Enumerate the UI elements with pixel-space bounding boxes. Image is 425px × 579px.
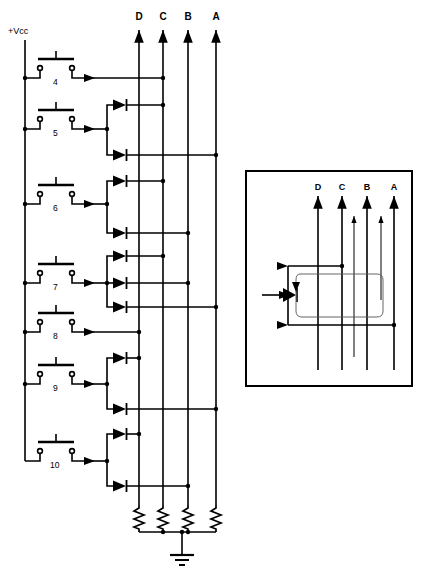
switch-10-left-lead [25,453,40,461]
diode-7-B-anode [113,278,126,289]
junction-7-A [214,305,218,309]
output-column-lines [139,30,216,505]
junction-6-C [161,179,165,183]
junction-4-C [161,76,165,80]
pulldown-resistor-B [183,505,193,532]
diode-10-D [113,428,141,440]
diode-5-C-anode [113,100,126,111]
inset-junction-bottom-A [392,323,396,327]
switch-6-terminal-left [38,192,43,197]
column-label-C: C [159,11,166,22]
diode-5-A [113,149,218,161]
resistor-A-body [211,505,221,532]
switch-10-terminal-left [38,449,43,454]
inset-column-label-D: D [315,182,322,192]
switch-7-vcc-node [23,281,27,285]
diode-7-A-anode [113,302,126,313]
switch-5-up-branch [107,105,113,129]
diode-9-A-anode [113,404,126,415]
switch-7-left-lead [25,275,40,283]
resistor-B-body [183,505,193,532]
switch-10-down-branch [107,461,113,486]
switch-9-right-lead [72,376,95,384]
switch-block-6[interactable]: 6 [23,177,113,233]
switch-8-terminal-left [38,320,43,325]
switch-10-label: 10 [50,460,60,470]
junction-9-D [137,356,141,360]
ground-node-B [186,530,190,534]
ground-node-C [161,530,165,534]
diode-9-D-anode [113,353,126,364]
switch-block-7[interactable]: 7 [23,256,113,307]
switch-8-vcc-node [23,330,27,334]
switch-6-label: 6 [53,203,58,213]
junction-7-C [161,254,165,258]
switch-8-terminal-right [70,320,75,325]
switch-7-label: 7 [53,282,58,292]
ground-bus [139,530,216,565]
switch-9-up-branch [107,358,113,384]
switch-5-vcc-node [23,127,27,131]
switch-10-up-branch [107,434,113,461]
inset-column-label-B: B [364,182,371,192]
switch-block-8[interactable]: 8 [23,305,141,341]
diode-6-C-anode [113,176,126,187]
switch-7-down-branch [107,283,113,307]
junction-9-A [214,407,218,411]
inset-column-label-C: C [339,182,346,192]
diode-6-B [113,227,190,239]
inset-junction-top-C [340,264,344,268]
switch-6-vcc-node [23,202,27,206]
switch-4-left-lead [25,70,40,78]
switch-5-terminal-left [38,117,43,122]
inset-border [246,171,412,386]
switch-4-right-lead [72,70,95,78]
resistor-D-body [134,505,144,532]
junction-5-A [214,153,218,157]
diode-10-B-anode [113,481,126,492]
switch-7-terminal-right [70,271,75,276]
switch-9-terminal-left [38,372,43,377]
switch-block-9[interactable]: 9 [23,357,113,409]
diode-5-A-anode [113,150,126,161]
switch-block-5[interactable]: 5 [23,102,113,155]
diode-10-B [113,480,190,492]
inset-detail-box: D C B A [246,171,412,386]
switch-7-up-branch [107,256,113,283]
column-label-B: B [184,11,191,22]
junction-7-B [186,281,190,285]
column-label-A: A [212,11,219,22]
junction-10-D [137,432,141,436]
pulldown-resistor-D [134,505,144,532]
switch-8-left-lead [25,324,40,332]
switch-9-down-branch [107,384,113,409]
switch-4-terminal-left [38,66,43,71]
diode-9-D [113,352,141,364]
switch-6-up-branch [107,181,113,204]
switch-5-right-lead [72,121,95,129]
switch-10-terminal-right [70,449,75,454]
switch-8-label: 8 [53,331,58,341]
diode-9-A [113,403,218,415]
column-label-D: D [135,11,142,22]
switch-block-10[interactable]: 10 [25,434,113,486]
junction-6-B [186,231,190,235]
diode-7-C-anode [113,251,126,262]
switch-7-right-lead [72,275,95,283]
switch-6-left-lead [25,196,40,204]
diode-7-A [113,301,218,313]
switch-5-left-lead [25,121,40,129]
power-rail: +Vcc [8,26,29,461]
switch-5-label: 5 [53,128,58,138]
resistor-C-body [158,505,168,532]
switch-5-down-branch [107,129,113,155]
switch-5-terminal-right [70,117,75,122]
switch-7-terminal-left [38,271,43,276]
switch-block-4[interactable]: 4 [23,51,165,87]
junction-10-B [186,484,190,488]
switch-6-terminal-right [70,192,75,197]
switch-4-terminal-right [70,66,75,71]
switch-6-down-branch [107,204,113,233]
diode-7-B [113,277,190,289]
inset-column-label-A: A [391,182,398,192]
